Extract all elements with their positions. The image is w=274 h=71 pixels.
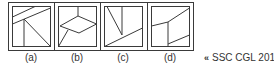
figure-a: [13, 7, 51, 47]
source-text: SSC CGL 2014: [212, 52, 274, 63]
figure-label-c: (c): [108, 52, 138, 63]
figure-label-a: (a): [16, 52, 46, 63]
double-chevron-left-icon: «: [204, 53, 209, 63]
figure-c: [105, 7, 143, 47]
source-citation: «SSC CGL 2014: [204, 52, 274, 63]
figure-label-d: (d): [155, 52, 185, 63]
figure-d: [152, 7, 190, 47]
figure-b: [59, 7, 97, 47]
answer-figures: [0, 0, 200, 52]
figure-label-b: (b): [62, 52, 92, 63]
